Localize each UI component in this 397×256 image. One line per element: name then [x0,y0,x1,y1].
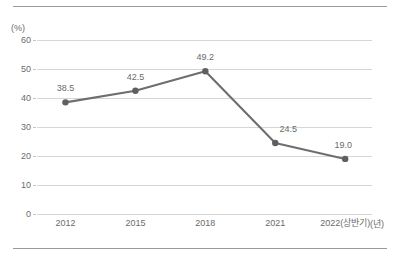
y-axis-tick-label: 30 [21,123,31,132]
y-axis-tick-label: 20 [21,152,31,161]
y-axis-tick-label: 60 [21,36,31,45]
y-axis-tick-mark [33,40,36,41]
data-point-marker [132,88,138,94]
y-axis-tick-mark [33,214,36,215]
data-point-marker [202,68,208,74]
bottom-divider-rule [13,248,387,249]
x-axis-tick-label: 2012 [55,219,75,228]
y-axis-tick-label: 0 [26,210,31,219]
line-series-svg [37,40,372,214]
data-point-marker [342,156,348,162]
data-point-marker [272,140,278,146]
x-axis-tick-label: 2015 [125,219,145,228]
x-axis-tick-label: 2021 [265,219,285,228]
x-axis-unit-label: (년) [370,220,384,229]
y-axis-tick-label: 40 [21,94,31,103]
x-axis-tick-label: 2018 [195,219,215,228]
gridline [37,214,372,215]
x-axis-tick-label: 2022(상반기) [320,219,370,228]
y-axis-tick-mark [33,156,36,157]
data-point-value-label: 38.5 [57,84,75,93]
y-axis-tick-mark [33,98,36,99]
y-axis-tick-mark [33,185,36,186]
chart-figure: (%) (년) 0102030405060 38.542.549.224.519… [0,0,397,256]
data-point-value-label: 24.5 [280,125,298,134]
data-point-value-label: 42.5 [127,73,145,82]
y-axis-tick-mark [33,69,36,70]
top-divider-rule [13,6,387,7]
data-point-value-label: 19.0 [334,141,352,150]
plot-area: 0102030405060 38.542.549.224.519.0 [37,40,372,214]
data-point-value-label: 49.2 [197,53,215,62]
y-axis-tick-mark [33,127,36,128]
y-axis-tick-label: 50 [21,65,31,74]
series-line [65,71,345,159]
y-axis-unit-label: (%) [11,24,25,33]
y-axis-tick-label: 10 [21,181,31,190]
series-markers-group [62,68,348,162]
data-point-marker [62,99,68,105]
